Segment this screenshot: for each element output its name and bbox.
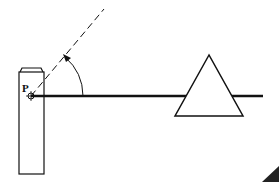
triangle-fulcrum — [175, 55, 243, 116]
point-p-label: P — [22, 82, 29, 94]
arrow-head-icon — [63, 54, 71, 62]
dashed-ray — [31, 9, 104, 96]
corner-shadow — [262, 166, 279, 182]
diagram-canvas: P — [0, 0, 279, 182]
angle-arc — [63, 54, 83, 96]
